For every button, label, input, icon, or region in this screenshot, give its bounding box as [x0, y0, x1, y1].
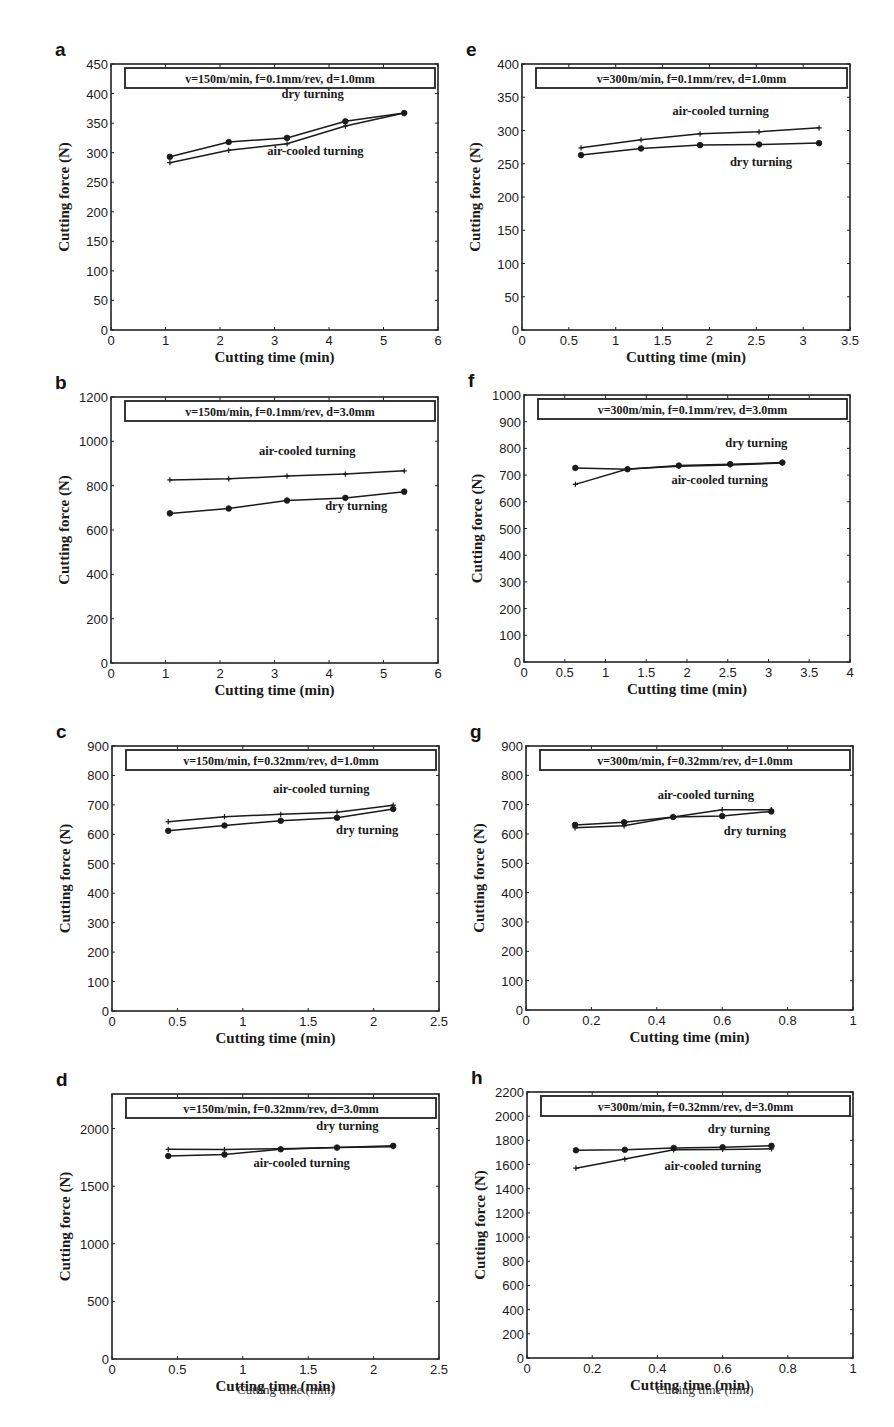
- y-tick-label: 900: [87, 739, 109, 754]
- y-tick-label: 150: [497, 223, 519, 238]
- x-tick-label: 0.5: [556, 665, 574, 680]
- y-tick-label: 200: [499, 602, 521, 617]
- data-point-circle: [621, 819, 627, 825]
- panel-f: f00.511.522.533.540100200300400500600700…: [468, 370, 854, 698]
- panel-letter: h: [471, 1067, 483, 1088]
- x-tick-label: 0: [108, 1362, 115, 1377]
- data-point-circle: [167, 154, 173, 160]
- y-tick-label: 1800: [495, 1133, 524, 1148]
- data-point-circle: [165, 1153, 171, 1159]
- data-point-circle: [756, 142, 762, 148]
- series-annotation: dry turning: [725, 436, 788, 450]
- y-axis-label: Cutting force (N): [472, 1170, 489, 1280]
- series-annotation: air-cooled turning: [267, 144, 364, 158]
- panel-h: h00.20.40.60.810200400600800100012001400…: [471, 1067, 857, 1394]
- data-point-plus: [622, 1157, 627, 1162]
- y-tick-label: 300: [87, 916, 109, 931]
- x-tick-label: 2: [370, 1362, 377, 1377]
- y-tick-label: 500: [499, 522, 521, 537]
- y-tick-label: 800: [86, 479, 108, 494]
- y-tick-label: 0: [101, 323, 108, 338]
- data-point-circle: [226, 139, 232, 145]
- series-annotation: air-cooled turning: [665, 1159, 762, 1173]
- x-tick-label: 0.8: [779, 1361, 797, 1376]
- x-tick-label: 2.5: [430, 1362, 448, 1377]
- data-point-circle: [334, 815, 340, 821]
- data-point-plus: [226, 476, 231, 481]
- x-tick-label: 2.5: [430, 1014, 448, 1029]
- y-tick-label: 200: [87, 945, 109, 960]
- y-tick-label: 400: [86, 87, 108, 102]
- data-point-circle: [768, 809, 774, 815]
- data-point-circle: [572, 822, 578, 828]
- panel-a: a0123456050100150200250300350400450Cutti…: [55, 39, 442, 366]
- x-axis-label: Cutting time (min): [216, 1030, 336, 1047]
- panel-letter: b: [55, 372, 67, 393]
- y-tick-label: 700: [501, 798, 523, 813]
- panel-letter: g: [470, 721, 482, 742]
- plot-frame: [111, 64, 438, 330]
- y-tick-label: 800: [501, 768, 523, 783]
- y-tick-label: 600: [501, 827, 523, 842]
- data-point-plus: [166, 819, 171, 824]
- y-tick-label: 2200: [495, 1085, 524, 1100]
- y-tick-label: 0: [516, 1003, 523, 1018]
- x-tick-label: 3.5: [841, 333, 859, 348]
- y-tick-label: 0: [514, 655, 521, 670]
- panel-c: c00.511.522.5010020030040050060070080090…: [56, 721, 448, 1047]
- y-tick-label: 400: [497, 57, 519, 72]
- x-tick-label: 0.2: [583, 1361, 601, 1376]
- plot-frame: [112, 1094, 439, 1359]
- y-tick-label: 500: [501, 856, 523, 871]
- series-annotation: dry turning: [708, 1122, 771, 1136]
- y-tick-label: 50: [94, 293, 108, 308]
- x-tick-label: 1.5: [654, 333, 672, 348]
- x-tick-label: 2.5: [719, 665, 737, 680]
- data-point-circle: [578, 152, 584, 158]
- plot-frame: [111, 397, 438, 663]
- y-tick-label: 350: [86, 116, 108, 131]
- x-tick-label: 2: [706, 333, 713, 348]
- series-annotation: dry turning: [325, 499, 388, 513]
- y-axis-label: Cutting force (N): [57, 1172, 74, 1282]
- x-tick-label: 2: [683, 665, 690, 680]
- x-tick-label: 1: [239, 1014, 246, 1029]
- footer-xlabel-left: Cutting time (min): [237, 1382, 335, 1398]
- data-point-plus: [167, 160, 172, 165]
- data-point-circle: [284, 498, 290, 504]
- y-tick-label: 0: [512, 323, 519, 338]
- data-point-circle: [573, 1147, 579, 1153]
- y-tick-label: 200: [502, 1327, 524, 1342]
- x-tick-label: 1.5: [299, 1014, 317, 1029]
- series-annotation: dry turning: [730, 155, 793, 169]
- x-tick-label: 1.5: [299, 1362, 317, 1377]
- y-tick-label: 450: [86, 57, 108, 72]
- y-tick-label: 900: [501, 739, 523, 754]
- y-tick-label: 500: [87, 857, 109, 872]
- series-annotation: dry turning: [282, 87, 345, 101]
- y-tick-label: 1500: [80, 1179, 109, 1194]
- x-tick-label: 0: [523, 1361, 530, 1376]
- y-tick-label: 100: [497, 257, 519, 272]
- y-tick-label: 900: [499, 415, 521, 430]
- panel-d: d00.511.522.50500100015002000Cutting tim…: [56, 1069, 448, 1395]
- x-tick-label: 3: [271, 333, 278, 348]
- x-tick-label: 2: [370, 1014, 377, 1029]
- y-tick-label: 1000: [495, 1230, 524, 1245]
- y-tick-label: 400: [501, 886, 523, 901]
- panel-letter: f: [468, 370, 475, 391]
- series-annotation: dry turning: [724, 824, 787, 838]
- x-axis-label: Cutting time (min): [630, 1029, 750, 1046]
- data-point-circle: [638, 146, 644, 152]
- y-tick-label: 100: [499, 628, 521, 643]
- x-axis-label: Cutting time (min): [627, 681, 747, 698]
- data-point-plus: [697, 131, 702, 136]
- series-annotation: air-cooled turning: [671, 473, 768, 487]
- panel-b: b0123456020040060080010001200Cutting tim…: [55, 372, 442, 699]
- data-point-circle: [278, 818, 284, 824]
- y-tick-label: 2000: [495, 1109, 524, 1124]
- series-annotation: dry turning: [336, 823, 399, 837]
- condition-text: v=300m/min, f=0.32mm/rev, d=3.0mm: [598, 1100, 794, 1114]
- y-tick-label: 200: [86, 612, 108, 627]
- y-axis-label: Cutting force (N): [56, 475, 73, 585]
